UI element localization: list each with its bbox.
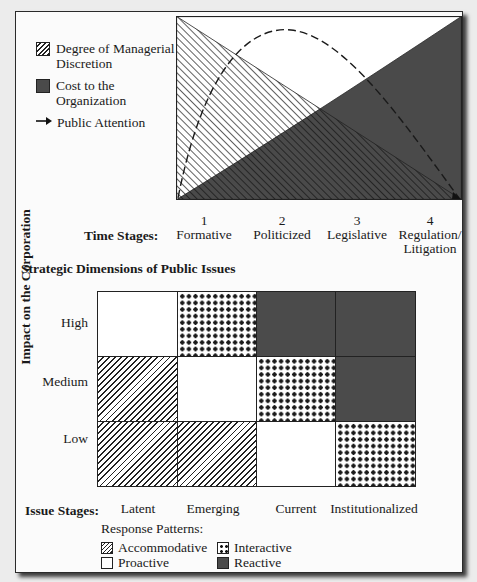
row-label-low: Low: [28, 431, 88, 447]
legend-interactive: Interactive: [217, 540, 292, 555]
time-stage-4: 4 Regulation/ Litigation: [385, 214, 475, 256]
diagonal-hatch-icon: [101, 542, 113, 554]
legend-item-discretion: Degree of Managerial Discretion: [36, 41, 174, 71]
legend-reactive: Reactive: [217, 555, 281, 570]
row-label-medium: Medium: [28, 374, 88, 390]
hatch-swatch-icon: [36, 42, 50, 56]
cell-low-current: [256, 421, 336, 487]
cell-low-latent: [97, 421, 178, 487]
response-patterns-title: Response Patterns:: [101, 521, 203, 537]
cell-medium-institutionalized: [335, 356, 416, 422]
legend-item-public-attention: Public Attention: [36, 115, 174, 130]
row-label-high: High: [28, 315, 88, 331]
blank-square-icon: [101, 557, 113, 569]
response-matrix: [97, 291, 416, 487]
dots-icon: [217, 542, 229, 554]
legend-accommodative: Accommodative: [101, 540, 207, 555]
legend-label-line2: Discretion: [56, 56, 112, 71]
stage-name: Regulation/: [385, 228, 475, 242]
dark-swatch-icon: [36, 79, 50, 93]
time-stage-chart: [176, 16, 462, 204]
cell-low-emerging: [177, 421, 257, 487]
arrow-right-icon: [36, 115, 52, 130]
figure-frame: Degree of Managerial Discretion Cost to …: [15, 11, 463, 573]
cell-medium-current: [256, 356, 336, 422]
cell-high-latent: [97, 291, 178, 357]
cell-low-institutionalized: [335, 421, 416, 487]
legend-proactive: Proactive: [101, 555, 169, 570]
legend-label: Public Attention: [57, 115, 145, 130]
legend-label: Accommodative: [118, 540, 207, 555]
time-stage-1: 1 Formative: [159, 214, 249, 242]
legend-label-line1: Degree of Managerial: [56, 41, 174, 56]
legend-label-line1: Cost to the: [56, 78, 115, 93]
dark-square-icon: [217, 557, 229, 569]
top-legend: Degree of Managerial Discretion Cost to …: [36, 41, 174, 137]
legend-label: Interactive: [234, 540, 292, 555]
time-stages-label: Time Stages:: [84, 228, 158, 244]
cell-high-emerging: [177, 291, 257, 357]
section-title: Strategic Dimensions of Public Issues: [21, 261, 236, 277]
cell-medium-emerging: [177, 356, 257, 422]
legend-label: Reactive: [234, 555, 281, 570]
cell-high-institutionalized: [335, 291, 416, 357]
stage-name: Formative: [159, 228, 249, 242]
legend-label: Cost to the Organization: [56, 78, 126, 108]
legend-label-line2: Organization: [56, 93, 126, 108]
cell-medium-latent: [97, 356, 178, 422]
y-axis-label: Impact on the Corporation: [18, 197, 34, 377]
legend-item-cost: Cost to the Organization: [36, 78, 174, 108]
stage-number: 1: [159, 214, 249, 228]
stage-number: 4: [385, 214, 475, 228]
legend-label: Proactive: [118, 555, 169, 570]
legend-label: Degree of Managerial Discretion: [56, 41, 174, 71]
stage-name-2: Litigation: [385, 242, 475, 256]
cell-high-current: [256, 291, 336, 357]
col-label-institutionalized: Institutionalized: [324, 501, 424, 517]
